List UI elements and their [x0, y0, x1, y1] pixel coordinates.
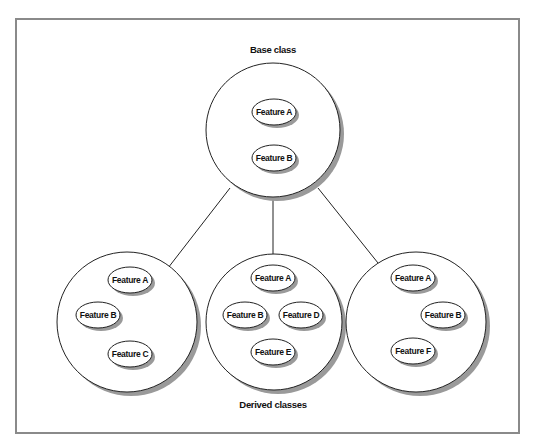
- derived-class-node-3: Feature A Feature B Feature F: [346, 252, 490, 396]
- svg-text:Feature A: Feature A: [112, 275, 148, 285]
- derived-class-node-1: Feature A Feature B Feature C: [57, 252, 201, 396]
- inheritance-diagram: Base class Feature A Feature B Feature A…: [0, 0, 533, 445]
- svg-text:Feature E: Feature E: [255, 347, 292, 357]
- svg-text:Feature D: Feature D: [283, 310, 320, 320]
- derived-class-node-2: Feature A Feature B Feature D Feature E: [206, 254, 346, 394]
- svg-text:Feature C: Feature C: [112, 349, 149, 359]
- svg-text:Feature B: Feature B: [80, 310, 117, 320]
- svg-text:Feature A: Feature A: [395, 273, 431, 283]
- svg-text:Feature B: Feature B: [256, 153, 293, 163]
- svg-text:Feature A: Feature A: [255, 273, 291, 283]
- base-class-node: Feature A Feature B: [206, 63, 344, 201]
- svg-text:Feature B: Feature B: [425, 310, 462, 320]
- derived-classes-label: Derived classes: [239, 399, 306, 410]
- connector-left: [168, 188, 230, 268]
- svg-text:Feature F: Feature F: [395, 346, 431, 356]
- svg-text:Feature A: Feature A: [256, 107, 292, 117]
- base-class-label: Base class: [250, 44, 296, 55]
- connector-right: [318, 188, 378, 263]
- svg-text:Feature B: Feature B: [227, 310, 264, 320]
